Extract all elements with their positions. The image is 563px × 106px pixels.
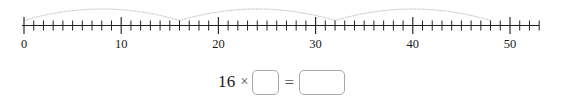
jump-arc-2 (180, 9, 336, 21)
numberline-worksheet: 01020304050 16 × = (0, 0, 563, 106)
equation-row: 16 × = (218, 70, 345, 95)
axis-labels-group: 01020304050 (21, 37, 516, 51)
equals-sign: = (284, 74, 294, 91)
axis-tick-label: 40 (407, 37, 420, 51)
factor-answer-box[interactable] (252, 70, 279, 95)
numberline-region: 01020304050 (0, 0, 563, 56)
axis-tick-label: 30 (309, 37, 322, 51)
multiplicand-label: 16 (218, 72, 236, 92)
axis-tick-label: 0 (21, 37, 27, 51)
jump-arc-1 (24, 9, 180, 21)
numberline-diagram: 01020304050 (0, 0, 563, 56)
axis-tick-label: 50 (504, 37, 517, 51)
axis-tick-label: 20 (212, 37, 225, 51)
jump-arcs-group (24, 9, 491, 21)
equation-region: 16 × = (0, 58, 563, 106)
multiplication-operator-icon: × (241, 75, 249, 89)
product-answer-box[interactable] (299, 70, 345, 95)
axis-tick-label: 10 (115, 37, 128, 51)
